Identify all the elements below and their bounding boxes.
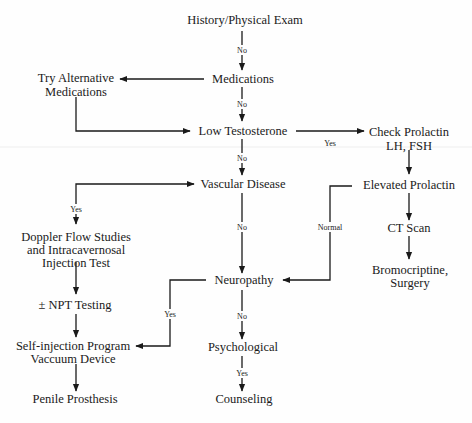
node-psychological: Psychological (208, 340, 279, 354)
flowchart-canvas: No No Yes No Yes No Normal Yes No Yes Hi… (0, 0, 472, 423)
edge-label-yes: Yes (236, 369, 248, 378)
node-penile-prosthesis: Penile Prosthesis (32, 392, 117, 406)
edge-label-yes: Yes (324, 139, 336, 148)
node-doppler-line3: Injection Test (42, 256, 111, 270)
node-npt-testing: ± NPT Testing (39, 298, 113, 312)
node-ct-scan: CT Scan (387, 221, 431, 235)
node-counseling: Counseling (216, 392, 274, 406)
node-try-alternative-line1: Try Alternative (38, 71, 115, 85)
edge-label-no: No (237, 223, 247, 232)
edge-elevated-neuropathy (283, 186, 352, 280)
node-self-injection-line1: Self-injection Program (16, 339, 130, 353)
edge-tryalt-lowtest (76, 97, 190, 131)
node-bromocriptine-line2: Surgery (390, 276, 430, 290)
edge-label-normal: Normal (318, 223, 343, 232)
edge-label-yes: Yes (70, 205, 82, 214)
node-self-injection-line2: Vaccuum Device (30, 352, 115, 366)
node-check-prolactin-line2: LH, FSH (386, 139, 432, 153)
node-doppler-line2: and Intracavernosal (27, 243, 126, 257)
node-neuropathy: Neuropathy (214, 273, 274, 287)
edge-labels: No No Yes No Yes No Normal Yes No Yes (67, 45, 344, 378)
edge-label-no: No (237, 312, 247, 321)
edge-label-no: No (237, 100, 247, 109)
node-doppler-line1: Doppler Flow Studies (21, 230, 131, 244)
node-low-testosterone: Low Testosterone (199, 124, 288, 138)
node-bromocriptine-line1: Bromocriptine, (372, 263, 448, 277)
edge-label-no: No (237, 154, 247, 163)
node-vascular-disease: Vascular Disease (200, 177, 285, 191)
node-history-physical-exam: History/Physical Exam (187, 13, 303, 27)
edge-label-yes: Yes (164, 310, 176, 319)
node-try-alternative-line2: Medications (45, 85, 107, 99)
flowchart-svg: No No Yes No Yes No Normal Yes No Yes Hi… (0, 0, 472, 423)
node-check-prolactin-line1: Check Prolactin (369, 125, 450, 139)
node-medications: Medications (212, 72, 274, 86)
node-elevated-prolactin: Elevated Prolactin (363, 178, 456, 192)
edge-label-no: No (237, 46, 247, 55)
edge-vascular-doppler (76, 184, 194, 218)
